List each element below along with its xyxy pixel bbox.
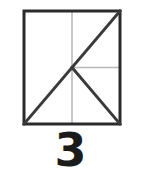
diagonal-center-to-bottom-right [72,68,120,125]
figure-caption-number: 3 [0,126,141,174]
figure-panel: 3 [0,0,141,174]
guide-lines [72,11,120,124]
